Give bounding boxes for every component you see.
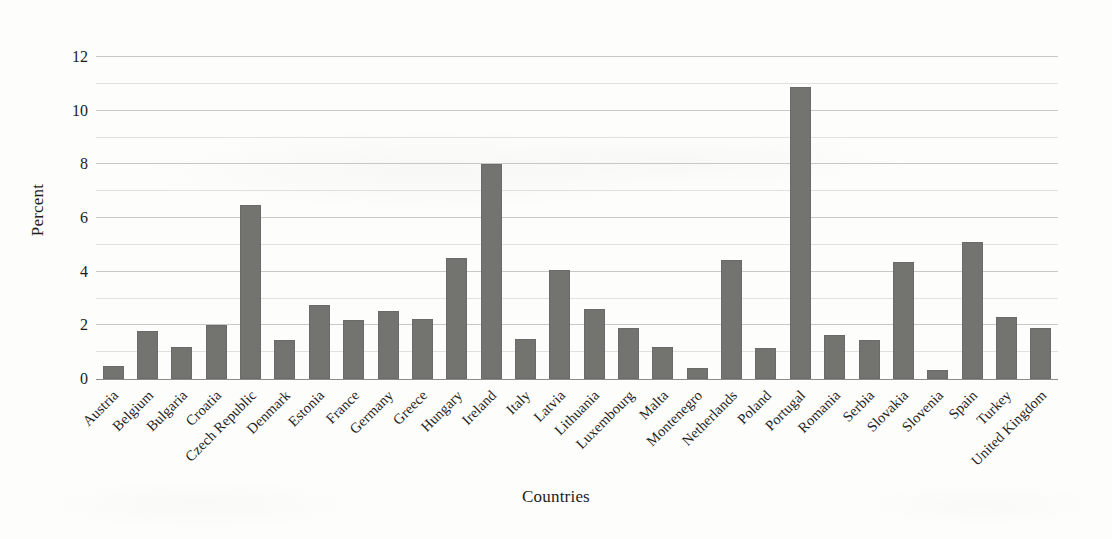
bar xyxy=(824,335,845,379)
x-axis-title: Countries xyxy=(0,487,1112,507)
bar xyxy=(274,340,295,379)
bar xyxy=(652,347,673,379)
y-tick-label: 0 xyxy=(62,370,88,388)
bar xyxy=(481,164,502,379)
bar xyxy=(996,317,1017,379)
bar xyxy=(103,366,124,379)
bar-chart-figure: Percent 024681012 AustriaBelgiumBulgaria… xyxy=(0,0,1112,539)
bar xyxy=(549,270,570,379)
bar xyxy=(790,87,811,379)
bar xyxy=(618,328,639,379)
bar xyxy=(721,260,742,379)
y-tick-label: 12 xyxy=(62,48,88,66)
bar xyxy=(584,309,605,379)
bar xyxy=(240,205,261,379)
bar xyxy=(206,325,227,379)
bar xyxy=(687,368,708,379)
x-tick-label: Ireland xyxy=(459,387,501,429)
y-tick-label: 2 xyxy=(62,316,88,334)
bar xyxy=(378,311,399,379)
bar xyxy=(343,320,364,379)
bar xyxy=(446,258,467,379)
x-axis-line xyxy=(96,379,1058,380)
bars-group xyxy=(96,57,1058,379)
bar xyxy=(859,340,880,379)
y-axis-title-text: Percent xyxy=(28,184,48,236)
bar xyxy=(515,339,536,379)
y-tick-label: 6 xyxy=(62,209,88,227)
bar xyxy=(893,262,914,379)
y-axis-tick-labels: 024681012 xyxy=(56,57,88,379)
y-tick-label: 4 xyxy=(62,263,88,281)
y-axis-title: Percent xyxy=(20,0,56,420)
bar xyxy=(755,348,776,379)
x-tick-label: Estonia xyxy=(285,387,328,430)
bar xyxy=(412,319,433,379)
x-axis-tick-labels: AustriaBelgiumBulgariaCroatiaCzech Repub… xyxy=(96,383,1058,483)
plot-area xyxy=(96,57,1058,379)
bar xyxy=(171,347,192,379)
bar xyxy=(309,305,330,379)
bar xyxy=(1030,328,1051,379)
bar xyxy=(962,242,983,379)
y-tick-label: 10 xyxy=(62,102,88,120)
bar xyxy=(927,370,948,379)
bar xyxy=(137,331,158,379)
y-tick-label: 8 xyxy=(62,155,88,173)
